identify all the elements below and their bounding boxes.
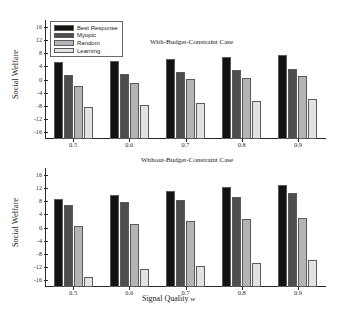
y-axis-label-top: Social Welfare [11, 45, 20, 105]
bar-best-response [166, 59, 175, 139]
y-axis-tick-label: 4 [39, 211, 42, 217]
bar-learning [308, 260, 317, 287]
figure: 1612840-4-8-12-160.50.60.70.80.9 With-Bu… [0, 0, 337, 312]
legend-item: Learning [54, 47, 118, 55]
bar-myopic [176, 72, 185, 139]
y-axis-tick [44, 40, 48, 41]
x-axis-tick-label: 0.8 [238, 142, 246, 148]
legend-item: Myopic [54, 32, 118, 40]
y-axis-tick-label: -8 [37, 103, 42, 109]
bar-random [74, 86, 83, 139]
bar-best-response [278, 55, 287, 139]
y-axis-tick [44, 132, 48, 133]
x-axis-label-symbol: w [190, 295, 195, 303]
bar-random [298, 218, 307, 287]
bar-learning [84, 277, 93, 287]
bar-myopic [64, 205, 73, 287]
y-axis-tick-label: -12 [34, 264, 42, 270]
y-axis-tick [44, 280, 48, 281]
bar-random [242, 78, 251, 139]
panel-title-top: With-Budget-Constraint Case [150, 39, 233, 46]
y-axis-tick-label: 8 [39, 50, 42, 56]
y-axis-tick [44, 80, 48, 81]
bar-myopic [288, 193, 297, 287]
y-axis-tick [44, 93, 48, 94]
x-axis-tick-label: 0.6 [125, 142, 133, 148]
bar-learning [140, 269, 149, 287]
y-axis-tick [44, 254, 48, 255]
y-axis-tick [44, 106, 48, 107]
bar-learning [196, 266, 205, 287]
y-axis-tick [44, 53, 48, 54]
bar-best-response [110, 61, 119, 139]
y-axis-tick [44, 228, 48, 229]
y-axis-tick-label: 12 [36, 185, 42, 191]
bar-myopic [176, 200, 185, 287]
bar-best-response [222, 187, 231, 287]
chart-panel-with-budget: 1612840-4-8-12-160.50.60.70.80.9 With-Bu… [0, 0, 337, 156]
x-axis-tick-label: 0.7 [182, 142, 190, 148]
y-axis-tick-label: 12 [36, 37, 42, 43]
bar-best-response [166, 191, 175, 287]
bar-learning [252, 263, 261, 287]
y-axis-tick [44, 267, 48, 268]
legend-label-learning: Learning [77, 48, 100, 54]
y-axis-tick [44, 188, 48, 189]
legend: Best Response Myopic Random Learning [50, 21, 123, 57]
plot-area-bottom: 1612840-4-8-12-160.50.60.70.80.9 [45, 168, 326, 287]
legend-swatch-random [54, 40, 74, 46]
y-axis-tick-label: -16 [34, 277, 42, 283]
y-axis-tick [44, 201, 48, 202]
bar-learning [140, 105, 149, 139]
y-axis-tick-label: 0 [39, 224, 42, 230]
y-axis-tick-label: 0 [39, 76, 42, 82]
bar-myopic [232, 197, 241, 287]
legend-swatch-best-response [54, 25, 74, 31]
bar-best-response [278, 185, 287, 287]
panel-title-bottom: Without-Budget-Constraint Case [141, 157, 233, 164]
bar-best-response [54, 199, 63, 287]
bar-myopic [232, 70, 241, 139]
y-axis-tick-label: 16 [36, 24, 42, 30]
bar-random [242, 219, 251, 287]
legend-label-myopic: Myopic [77, 32, 96, 38]
y-axis-tick-label: -4 [37, 238, 42, 244]
y-axis-tick [44, 214, 48, 215]
x-axis-tick-label: 0.9 [294, 142, 302, 148]
legend-swatch-myopic [54, 33, 74, 39]
y-axis-tick-label: -12 [34, 116, 42, 122]
bar-random [130, 224, 139, 287]
bar-best-response [222, 57, 231, 139]
y-axis-tick-label: -4 [37, 90, 42, 96]
bar-random [74, 226, 83, 287]
bar-random [186, 221, 195, 287]
bar-learning [196, 103, 205, 139]
bar-random [186, 79, 195, 139]
bar-myopic [120, 74, 129, 139]
legend-item: Random [54, 39, 118, 47]
bar-learning [84, 107, 93, 139]
y-axis-tick [44, 119, 48, 120]
legend-label-random: Random [77, 40, 100, 46]
y-axis-tick-label: 16 [36, 172, 42, 178]
y-axis-tick-label: -16 [34, 129, 42, 135]
y-axis-tick-label: 4 [39, 63, 42, 69]
chart-panel-without-budget: 1612840-4-8-12-160.50.60.70.80.9 [0, 150, 337, 312]
y-axis-tick [44, 175, 48, 176]
bar-best-response [110, 195, 119, 287]
x-axis-label: Signal Quality w [0, 294, 337, 303]
y-axis-tick [44, 66, 48, 67]
legend-swatch-learning [54, 48, 74, 54]
bar-learning [308, 99, 317, 139]
legend-item: Best Response [54, 24, 118, 32]
bar-myopic [120, 202, 129, 287]
legend-label-best-response: Best Response [77, 25, 118, 31]
bar-best-response [54, 62, 63, 139]
x-axis-tick-label: 0.5 [69, 142, 77, 148]
x-axis-label-text: Signal Quality [142, 294, 188, 303]
y-axis-tick-label: -8 [37, 251, 42, 257]
bar-random [130, 83, 139, 139]
y-axis-tick-label: 8 [39, 198, 42, 204]
bar-myopic [288, 69, 297, 139]
y-axis-tick [44, 27, 48, 28]
